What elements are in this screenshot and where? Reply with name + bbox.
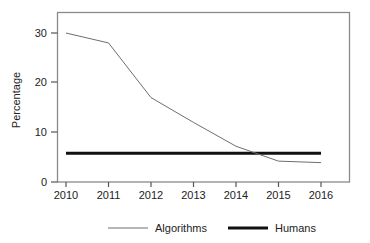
chart-background xyxy=(0,0,370,243)
x-tick-label-2015: 2015 xyxy=(266,189,290,201)
x-tick-label-2012: 2012 xyxy=(139,189,163,201)
legend-label-humans: Humans xyxy=(275,222,316,234)
x-tick-label-2013: 2013 xyxy=(181,189,205,201)
y-tick-label-30: 30 xyxy=(35,27,47,39)
y-tick-label-10: 10 xyxy=(35,126,47,138)
legend-label-algorithms: Algorithms xyxy=(155,222,207,234)
line-chart-svg: 0 10 20 30 Percentage 2010 2011 2012 201… xyxy=(0,0,370,243)
x-tick-label-2016: 2016 xyxy=(309,189,333,201)
y-tick-label-0: 0 xyxy=(41,176,47,188)
x-tick-label-2011: 2011 xyxy=(97,189,121,201)
chart-figure: 0 10 20 30 Percentage 2010 2011 2012 201… xyxy=(0,0,370,243)
x-tick-label-2010: 2010 xyxy=(54,189,78,201)
y-axis-title: Percentage xyxy=(10,72,22,128)
x-tick-label-2014: 2014 xyxy=(224,189,248,201)
y-tick-label-20: 20 xyxy=(35,76,47,88)
